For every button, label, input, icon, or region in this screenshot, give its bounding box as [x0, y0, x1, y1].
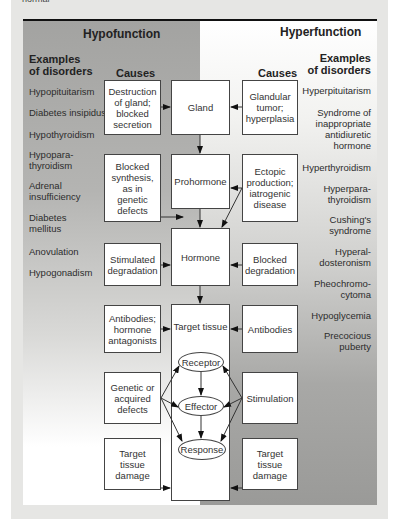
diagram-frame: Hypofunction Hyperfunction Examples of d…: [23, 19, 377, 505]
arrow-connectors: [23, 21, 377, 505]
caption-fragment: normal: [22, 0, 50, 4]
